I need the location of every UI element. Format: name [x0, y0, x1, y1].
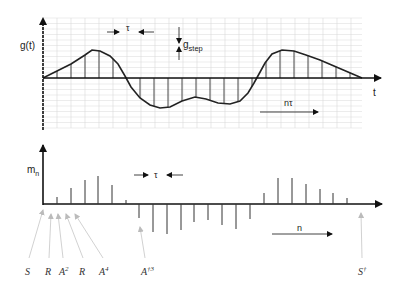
- gt-label: g(t): [20, 40, 35, 51]
- n-label: n: [297, 223, 302, 233]
- bottom-tau-label: τ: [154, 170, 158, 180]
- annotation-label: R: [44, 266, 51, 277]
- annotation-label: S†: [358, 265, 367, 277]
- svg-text:mn: mn: [27, 164, 39, 177]
- top-tau-label: τ: [126, 23, 130, 33]
- operator-annotations: SRA2RA4A†3S†: [25, 210, 367, 277]
- mn-label: m: [27, 164, 35, 175]
- t-axis-label: t: [373, 87, 376, 98]
- gstep-sub: step: [189, 44, 203, 53]
- mn-sub: n: [35, 170, 39, 177]
- top-grid: [43, 18, 362, 128]
- annotation-label: R: [78, 266, 85, 277]
- bottom-tau-indicator: τ: [134, 170, 183, 180]
- ntau-label: nτ: [284, 98, 293, 108]
- annotation-label: A4: [98, 265, 109, 277]
- mn-sample-stems: [57, 176, 347, 234]
- annotation-label: S: [25, 266, 30, 277]
- gstep-indicator: gstep: [179, 27, 203, 60]
- gt-curve: [43, 50, 362, 108]
- n-indicator: n: [272, 223, 332, 234]
- annotation-label: A†3: [140, 265, 155, 277]
- top-tau-indicator: τ: [107, 23, 154, 33]
- annotation-label: A2: [58, 265, 69, 277]
- diagram-canvas: g(t) t τ gstep nτ mn τ n SRA2RA4A†3S†: [0, 0, 399, 297]
